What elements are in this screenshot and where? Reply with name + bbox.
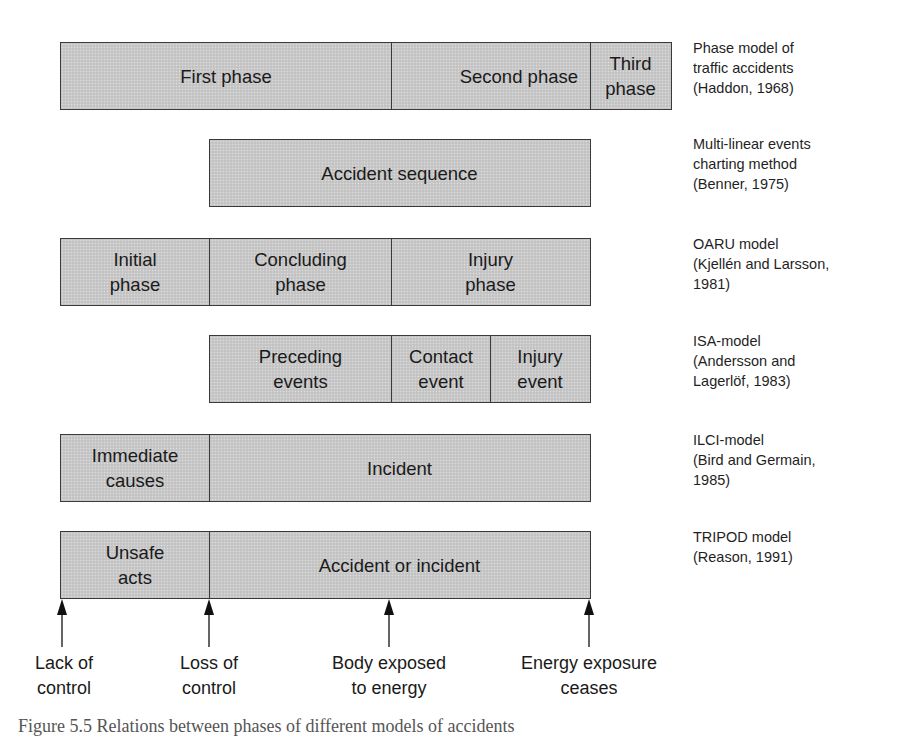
model-label-ilci: ILCI-model (Bird and Germain, 1985) [693,430,816,490]
arrow-up-icon [582,599,596,647]
segment-label: Second phase [460,64,578,89]
model-label-isa: ISA-model (Andersson and Lagerlöf, 1983) [693,331,795,391]
segment-label: Accident sequence [321,161,477,186]
segment-concluding-phase: Concluding phase [209,239,391,305]
model-row-ilci: Immediate causes Incident [60,434,591,502]
segment-label: Incident [367,456,432,481]
segment-label: Initial phase [110,247,160,297]
model-row-haddon: First phase Second phase Third phase [60,42,672,110]
segment-label: Preceding events [259,344,342,394]
arrow-up-icon [55,599,69,647]
segment-accident-sequence: Accident sequence [210,140,589,206]
segment-label: Unsafe acts [106,540,165,590]
segment-label: Third phase [605,51,655,101]
model-label-benner: Multi-linear events charting method (Ben… [693,134,811,194]
segment-immediate-causes: Immediate causes [61,435,209,501]
segment-third-phase: Third phase [590,43,670,109]
marker-label-loss-of-control: Loss of control [180,651,238,701]
marker-label-body-exposed: Body exposed to energy [332,651,446,701]
segment-contact-event: Contact event [391,336,490,402]
segment-label: Concluding phase [254,247,347,297]
segment-incident: Incident [209,435,589,501]
segment-accident-or-incident: Accident or incident [209,532,589,598]
arrow-up-icon [382,599,396,647]
segment-label: Contact event [409,344,473,394]
segment-first-phase: First phase [61,43,391,109]
marker-label-energy-exposure-ceases: Energy exposure ceases [521,651,657,701]
segment-injury-event: Injury event [490,336,589,402]
segment-label: Injury phase [465,247,515,297]
figure-caption: Figure 5.5 Relations between phases of d… [18,716,515,737]
segment-initial-phase: Initial phase [61,239,209,305]
segment-label: Accident or incident [319,553,480,578]
segment-label: Immediate causes [92,443,178,493]
segment-preceding-events: Preceding events [210,336,391,402]
model-label-haddon: Phase model of traffic accidents (Haddon… [693,38,794,98]
model-row-isa: Preceding events Contact event Injury ev… [209,335,591,403]
segment-injury-phase: Injury phase [391,239,589,305]
marker-label-lack-of-control: Lack of control [35,651,93,701]
segment-unsafe-acts: Unsafe acts [61,532,209,598]
segment-label: First phase [180,64,272,89]
arrow-up-icon [202,599,216,647]
model-row-benner: Accident sequence [209,139,591,207]
model-label-oaru: OARU model (Kjellén and Larsson, 1981) [693,234,829,294]
model-label-tripod: TRIPOD model (Reason, 1991) [693,527,793,567]
model-row-tripod: Unsafe acts Accident or incident [60,531,591,599]
segment-second-phase: Second phase [391,43,590,109]
model-row-oaru: Initial phase Concluding phase Injury ph… [60,238,591,306]
segment-label: Injury event [517,344,562,394]
